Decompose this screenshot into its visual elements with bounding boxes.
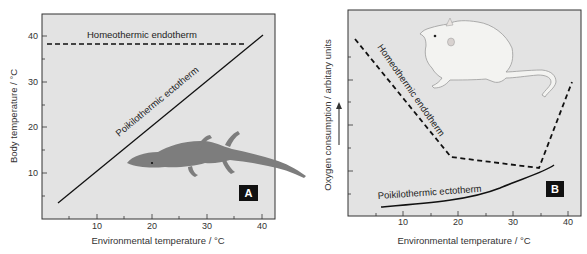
- panel-b-x-axis-label: Environmental temperature / °C: [397, 235, 530, 246]
- panel-b-y-axis-label: Oxygen consumption / arbitary units: [322, 39, 333, 191]
- panel-a-x-tick-10: 10: [92, 221, 102, 231]
- panel-a-y-tick-30: 30: [28, 77, 38, 87]
- panel-b: 10 20 30 40 Environmental temperature / …: [322, 10, 581, 246]
- panel-a-x-tick-20: 20: [147, 221, 157, 231]
- panel-a-y-tick-40: 40: [28, 31, 38, 41]
- up-arrow-icon: [336, 102, 342, 145]
- panel-b-x-tick-20: 20: [453, 217, 463, 227]
- panel-b-x-tick-30: 30: [508, 217, 518, 227]
- figure: 40 30 20 10 10 20 30 40 Environmental te…: [0, 0, 587, 254]
- panel-a-x-axis-label: Environmental temperature / °C: [91, 235, 224, 246]
- panel-a-y-tick-10: 10: [28, 168, 38, 178]
- panel-a-y-tick-20: 20: [28, 122, 38, 132]
- panel-a-x-tick-30: 30: [202, 221, 212, 231]
- panel-a-y-axis-label: Body temperature / °C: [8, 69, 19, 163]
- panel-a-badge-label: A: [245, 187, 253, 199]
- panel-a: 40 30 20 10 10 20 30 40 Environmental te…: [8, 14, 306, 246]
- panel-b-x-tick-10: 10: [398, 217, 408, 227]
- panel-a-x-tick-40: 40: [257, 221, 267, 231]
- panel-b-x-tick-40: 40: [563, 217, 573, 227]
- panel-a-homeothermic-label: Homeothermic endotherm: [87, 29, 197, 40]
- panel-b-badge-label: B: [551, 183, 559, 195]
